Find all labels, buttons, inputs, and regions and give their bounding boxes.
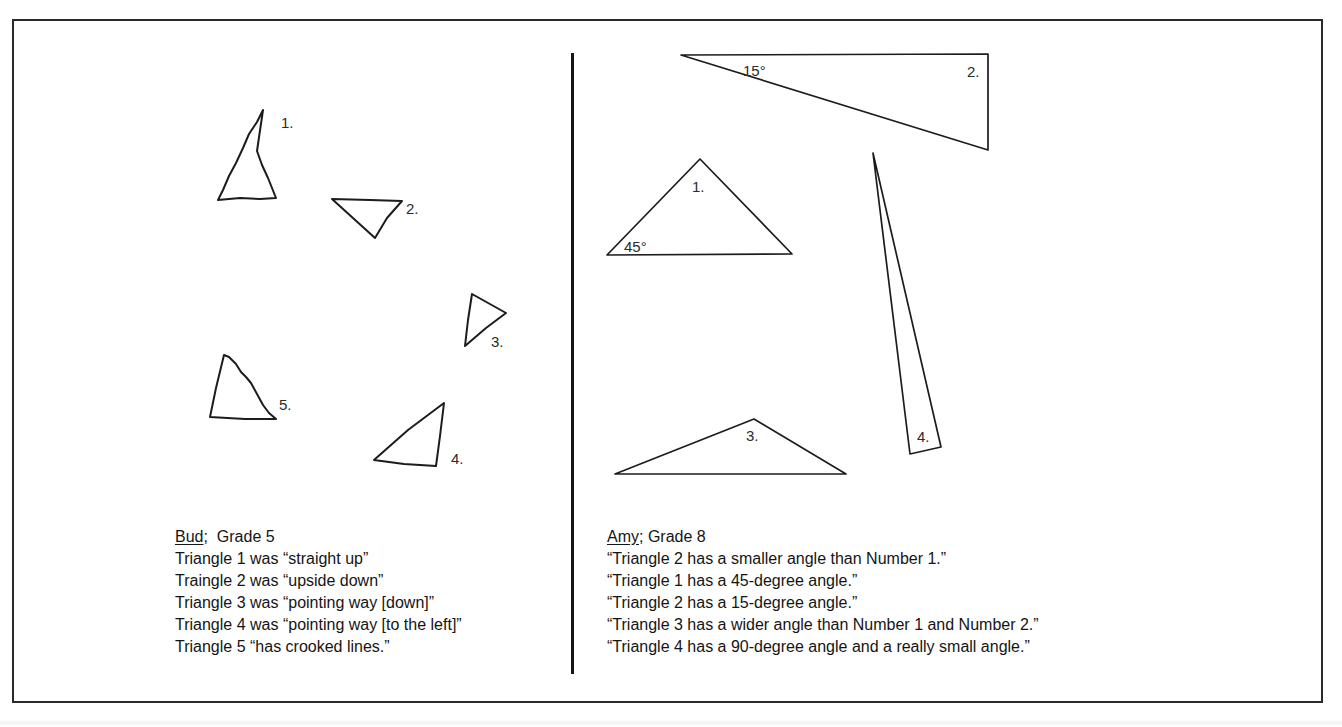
bud-heading: Bud; Grade 5 [175, 526, 462, 548]
amy-triangle-1-label: 1. [692, 178, 705, 195]
cropped-page-text [0, 716, 1342, 727]
amy-student-name: Amy [607, 528, 639, 545]
bud-separator: ; [203, 528, 207, 545]
bud-triangle-4-label: 4. [451, 450, 464, 467]
bud-triangle-5: 5. [210, 355, 292, 419]
amy-triangle-1: 1. 45° [607, 159, 792, 255]
bud-grade: Grade 5 [217, 528, 275, 545]
amy-triangle-2: 15° 2. [681, 54, 988, 150]
bud-caption: Bud; Grade 5 Triangle 1 was “straight up… [175, 526, 462, 658]
bud-triangle-3-label: 3. [491, 333, 504, 350]
amy-separator: ; [639, 528, 643, 545]
amy-description-5: “Triangle 4 has a 90-degree angle and a … [607, 636, 1039, 658]
amy-heading: Amy; Grade 8 [607, 526, 1039, 548]
bud-triangle-1-label: 1. [281, 114, 294, 131]
amy-triangle-4: 4. [873, 153, 941, 454]
bud-description-3: Triangle 3 was “pointing way [down]” [175, 592, 462, 614]
amy-triangle-4-label: 4. [917, 428, 930, 445]
bud-triangle-3: 3. [465, 294, 506, 350]
bud-student-name: Bud [175, 528, 203, 545]
bud-description-1: Triangle 1 was “straight up” [175, 548, 462, 570]
amy-angle-label-45: 45° [624, 238, 647, 255]
panel-divider [571, 53, 574, 674]
bud-triangle-4: 4. [374, 403, 464, 467]
amy-description-2: “Triangle 1 has a 45-degree angle.” [607, 570, 1039, 592]
amy-description-4: “Triangle 3 has a wider angle than Numbe… [607, 614, 1039, 636]
amy-description-3: “Triangle 2 has a 15-degree angle.” [607, 592, 1039, 614]
amy-triangle-3-label: 3. [746, 427, 759, 444]
bud-description-5: Triangle 5 “has crooked lines.” [175, 636, 462, 658]
bud-description-4: Triangle 4 was “pointing way [to the lef… [175, 614, 462, 636]
amy-grade: Grade 8 [648, 528, 706, 545]
bud-triangle-2: 2. [332, 199, 419, 238]
bud-description-2: Traingle 2 was “upside down” [175, 570, 462, 592]
bud-triangle-1: 1. [218, 110, 294, 200]
bud-triangle-2-label: 2. [406, 200, 419, 217]
amy-description-1: “Triangle 2 has a smaller angle than Num… [607, 548, 1039, 570]
bud-triangle-5-label: 5. [279, 396, 292, 413]
amy-triangle-3: 3. [615, 419, 846, 474]
amy-caption: Amy; Grade 8 “Triangle 2 has a smaller a… [607, 526, 1039, 658]
amy-triangle-2-label: 2. [967, 63, 980, 80]
amy-angle-label-15: 15° [743, 62, 766, 79]
